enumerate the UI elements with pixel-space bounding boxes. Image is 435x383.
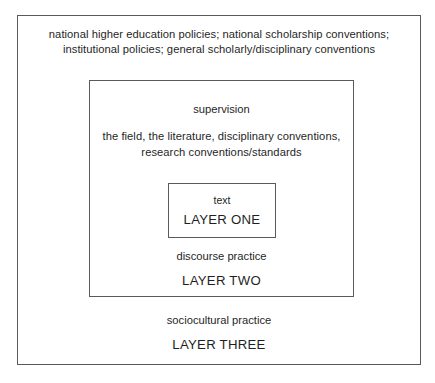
layer-two-context: supervision the field, the literature, d…	[90, 102, 353, 161]
layer-three-box: national higher education policies; nati…	[17, 15, 421, 365]
layer-three-context-line-2: institutional policies; general scholarl…	[18, 42, 420, 57]
layer-two-box: supervision the field, the literature, d…	[89, 80, 354, 297]
layer-three-context-line-1: national higher education policies; nati…	[18, 27, 420, 42]
layer-two-context-line-1: the field, the literature, disciplinary …	[90, 129, 353, 145]
layer-two-practice-label: discourse practice	[90, 249, 353, 264]
layer-two-lead-label: supervision	[90, 102, 353, 117]
layer-three-practice-label: sociocultural practice	[18, 313, 420, 328]
layer-one-box: text LAYER ONE	[168, 183, 276, 238]
layer-three-context: national higher education policies; nati…	[18, 27, 420, 57]
layer-one-lead-label: text	[213, 194, 230, 207]
layer-one-title: LAYER ONE	[184, 212, 261, 227]
layer-two-title: LAYER TWO	[90, 273, 353, 288]
layer-two-context-line-2: research conventions/standards	[90, 145, 353, 161]
layer-two-descriptor: the field, the literature, disciplinary …	[90, 129, 353, 161]
diagram-canvas: national higher education policies; nati…	[0, 0, 435, 383]
layer-two-label-block: discourse practice LAYER TWO	[90, 249, 353, 288]
layer-three-label-block: sociocultural practice LAYER THREE	[18, 313, 420, 352]
layer-three-title: LAYER THREE	[18, 337, 420, 352]
